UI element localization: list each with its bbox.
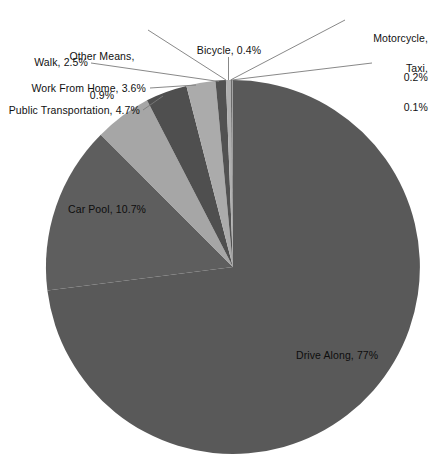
pie-chart: Motorcycle, 0.2% Taxi, 0.1% Bicycle, 0.4… <box>0 0 432 464</box>
pie-label-bicycle: Bicycle, 0.4% <box>176 44 282 57</box>
pie-label-taxi-line2: 0.1% <box>340 101 428 114</box>
pie-label-walk: Walk, 2.5% <box>6 56 88 69</box>
pie-label-public-transportation: Public Transportation, 4.7% <box>2 104 140 117</box>
pie-label-taxi: Taxi, 0.1% <box>340 36 428 140</box>
pie-label-car-pool: Car Pool, 10.7% <box>68 203 146 216</box>
pie-label-work-from-home: Work From Home, 3.6% <box>24 82 146 95</box>
pie-label-taxi-line1: Taxi, <box>340 62 428 75</box>
pie-label-drive-along: Drive Along, 77% <box>296 349 378 362</box>
